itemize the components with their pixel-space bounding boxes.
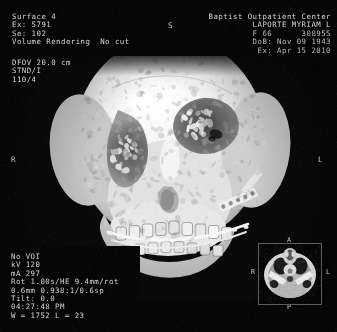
axial-reference-thumbnail[interactable] (258, 243, 322, 305)
ct-viewer-window: Surface 4 Ex: 5791 Se: 102 Volume Render… (0, 0, 337, 332)
axial-slice-image (259, 244, 321, 304)
